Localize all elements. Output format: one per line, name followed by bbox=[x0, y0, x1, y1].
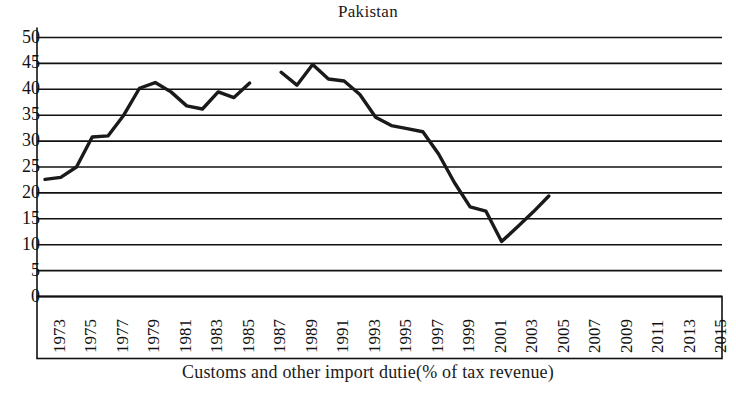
x-axis-tick-label: 1973 bbox=[51, 319, 68, 353]
x-axis-tick-label: 2009 bbox=[618, 319, 635, 353]
x-axis-tick-label: 2013 bbox=[681, 319, 698, 353]
x-axis-tick-label: 2007 bbox=[586, 319, 603, 353]
x-axis-tick-label: 1983 bbox=[208, 319, 225, 353]
x-axis-tick-label: 1981 bbox=[177, 319, 194, 353]
x-axis-title: Customs and other import dutie(% of tax … bbox=[0, 362, 736, 383]
x-axis-tick-label: 1979 bbox=[145, 319, 162, 353]
x-axis-tick-label: 1993 bbox=[366, 319, 383, 353]
chart-figure: Pakistan 05101520253035404550 1973197519… bbox=[0, 0, 736, 394]
x-axis-tick-label: 1991 bbox=[334, 319, 351, 353]
x-axis-tick-labels: 1973197519771979198119831985198719891991… bbox=[0, 0, 736, 394]
x-axis-tick-label: 1995 bbox=[397, 319, 414, 353]
x-axis-tick-label: 1977 bbox=[114, 319, 131, 353]
x-axis-tick-label: 2011 bbox=[649, 319, 666, 352]
x-axis-tick-label: 1999 bbox=[460, 319, 477, 353]
x-axis-tick-label: 1997 bbox=[429, 319, 446, 353]
x-axis-tick-label: 1987 bbox=[271, 319, 288, 353]
x-axis-tick-label: 2015 bbox=[712, 319, 729, 353]
x-axis-tick-label: 2001 bbox=[492, 319, 509, 353]
x-axis-tick-label: 1975 bbox=[82, 319, 99, 353]
x-axis-tick-label: 1985 bbox=[240, 319, 257, 353]
x-axis-tick-label: 1989 bbox=[303, 319, 320, 353]
x-axis-tick-label: 2005 bbox=[555, 319, 572, 353]
x-axis-tick-label: 2003 bbox=[523, 319, 540, 353]
